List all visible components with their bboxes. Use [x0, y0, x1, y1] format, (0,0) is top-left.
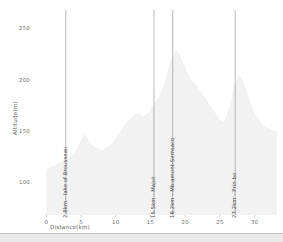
y-tick-label: 100 — [8, 179, 30, 185]
x-tick-label: 25 — [209, 219, 231, 225]
x-tick-label: 10 — [105, 219, 127, 225]
x-tick-label: 30 — [244, 219, 266, 225]
y-axis-title: Altitude(m) — [12, 101, 18, 135]
window-chrome-strip — [0, 233, 283, 242]
y-tick-label: 250 — [8, 25, 30, 31]
x-tick-label: 20 — [174, 219, 196, 225]
annotation-label-1: 15.5km - Majot — [150, 177, 156, 218]
x-tick-label: 15 — [139, 219, 161, 225]
chart-canvas — [0, 0, 283, 233]
annotation-label-0: 2.8km - lake of Brousseau — [62, 147, 68, 218]
elevation-profile-chart: 100150200250 051015202530 2.8km - lake o… — [0, 0, 283, 233]
annotation-label-3: 27.2km - Prin bo — [231, 173, 237, 218]
x-axis-title: Distance(km) — [50, 224, 90, 230]
annotation-label-2: 18.2km - Mb:amont-Semsacq — [169, 137, 175, 218]
altitude-area-series — [46, 51, 276, 215]
y-tick-label: 200 — [8, 77, 30, 83]
